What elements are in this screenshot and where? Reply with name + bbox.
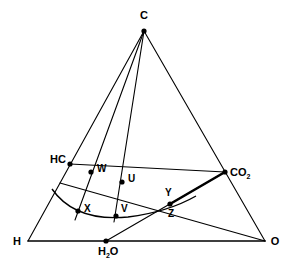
edge-YZ-to-CO2-bold xyxy=(170,172,225,204)
point-marker-CO2 xyxy=(222,169,227,174)
label-X: X xyxy=(84,203,91,214)
label-HC: HC xyxy=(50,153,66,165)
label-Y: Y xyxy=(165,187,172,198)
dots-group xyxy=(67,28,227,243)
label-U: U xyxy=(128,173,135,184)
point-marker-X xyxy=(75,208,80,213)
edge-C-to-X xyxy=(75,31,144,220)
point-marker-Y xyxy=(167,201,172,206)
label-H2O-tail: O xyxy=(110,245,119,257)
point-marker-V xyxy=(113,213,118,218)
point-marker-HC xyxy=(67,161,72,166)
label-H: H xyxy=(13,235,21,247)
label-W: W xyxy=(97,163,107,174)
point-marker-H2O xyxy=(103,238,108,243)
labels-group: CHOHCCO2H2OWUXVYZ xyxy=(13,9,280,259)
point-marker-U xyxy=(119,179,124,184)
point-marker-W xyxy=(88,169,93,174)
label-C: C xyxy=(140,9,148,21)
label-H2O: H2O xyxy=(98,245,119,259)
label-Z: Z xyxy=(168,208,174,219)
label-CO2: CO2 xyxy=(230,166,251,180)
label-CO2-subscript: 2 xyxy=(247,173,251,180)
ternary-diagram: CHOHCCO2H2OWUXVYZ xyxy=(0,0,291,271)
point-marker-C xyxy=(141,28,146,33)
edge-O-to-HCline xyxy=(60,183,265,241)
edges-group xyxy=(28,31,265,241)
edge-C-to-V xyxy=(114,31,144,222)
label-V: V xyxy=(121,203,128,214)
label-O: O xyxy=(271,235,280,247)
